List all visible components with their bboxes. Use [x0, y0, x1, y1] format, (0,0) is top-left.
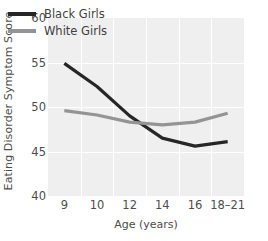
legend-swatch-icon	[8, 12, 36, 16]
plot-area	[48, 18, 244, 196]
legend-label: Black Girls	[44, 7, 105, 21]
series-line	[64, 63, 227, 146]
x-tick-label: 18–21	[210, 198, 245, 212]
x-axis-title: Age (years)	[48, 218, 244, 231]
x-tick-label: 12	[122, 198, 137, 212]
y-tick-label: 50	[22, 100, 46, 114]
y-tick-label: 40	[22, 189, 46, 203]
chart-legend: Black GirlsWhite Girls	[8, 5, 107, 39]
x-axis-tick-labels: 91012141618–21	[48, 198, 244, 214]
series-line	[64, 111, 227, 125]
x-tick-label: 14	[155, 198, 170, 212]
y-tick-label: 55	[22, 56, 46, 70]
chart-container: Eating Disorder Symptom Score 6055504540…	[0, 0, 268, 241]
legend-swatch-icon	[8, 29, 36, 33]
legend-entry: White Girls	[8, 22, 107, 39]
x-tick-label: 16	[188, 198, 203, 212]
x-tick-label: 10	[90, 198, 105, 212]
legend-entry: Black Girls	[8, 5, 107, 22]
y-tick-label: 45	[22, 145, 46, 159]
data-series-layer	[48, 18, 244, 196]
x-tick-label: 9	[61, 198, 68, 212]
legend-label: White Girls	[44, 24, 107, 38]
